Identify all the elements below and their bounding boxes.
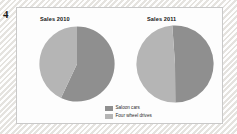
exam-question-page: 4 Sales 2010 Sales 2011 Sa: [0, 0, 237, 134]
chart-panel: Sales 2010 Sales 2011 Saloon cars: [16, 7, 223, 124]
pie-slices-2010: [39, 26, 114, 101]
question-number: 4: [3, 9, 9, 20]
pie-chart-sales-2010-svg: [39, 26, 115, 102]
pie-slice-four-wheel-drives-2011: [136, 25, 175, 102]
pie-chart-title-2010: Sales 2010: [40, 17, 70, 23]
legend-label-saloon-cars: Saloon cars: [116, 106, 140, 111]
pie-chart-title-2011: Sales 2011: [147, 17, 176, 23]
legend-swatch-saloon-cars: [105, 106, 113, 112]
legend-item-saloon-cars: Saloon cars: [105, 105, 152, 112]
pie-slice-saloon-cars-2011: [172, 25, 213, 102]
legend-swatch-four-wheel-drives: [105, 114, 113, 120]
legend-item-four-wheel-drives: Four wheel drives: [105, 113, 152, 120]
pie-chart-sales-2011-svg: [136, 25, 214, 103]
pie-chart-sales-2010: [39, 26, 115, 102]
pie-slices-2011: [136, 25, 213, 102]
chart-legend: Saloon cars Four wheel drives: [105, 105, 152, 120]
legend-label-four-wheel-drives: Four wheel drives: [116, 114, 152, 119]
pie-chart-sales-2011: [136, 25, 214, 103]
